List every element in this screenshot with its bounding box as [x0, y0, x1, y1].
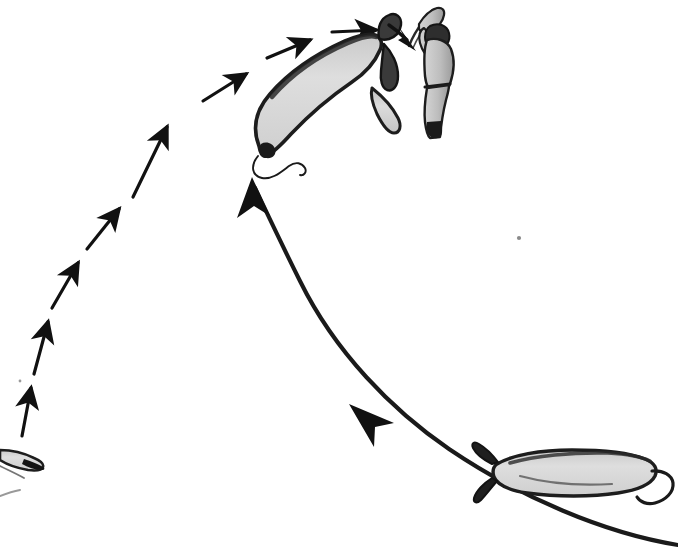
- figure-root: Bull trajectory diagram Line drawing of …: [0, 0, 678, 555]
- ink-speck-secondary: [19, 380, 22, 383]
- arc-arrow-8: [332, 30, 376, 32]
- ink-speck: [517, 236, 521, 240]
- bullfight-diagram-canvas: [0, 0, 678, 555]
